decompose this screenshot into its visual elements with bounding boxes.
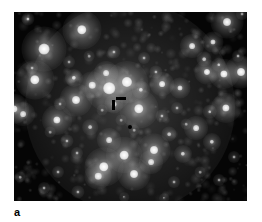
reference-dot-marker bbox=[128, 125, 132, 129]
sky-noise-texture bbox=[14, 12, 247, 201]
figure-panel: a bbox=[0, 0, 262, 222]
astronomical-image bbox=[14, 12, 247, 201]
panel-label: a bbox=[14, 206, 20, 218]
